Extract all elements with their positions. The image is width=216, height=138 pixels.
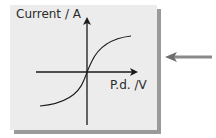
x-axis-label: P.d. /V <box>110 78 147 92</box>
left-arrow-icon <box>165 52 212 62</box>
iv-curve <box>40 36 131 106</box>
y-axis-label: Current / A <box>16 7 81 21</box>
